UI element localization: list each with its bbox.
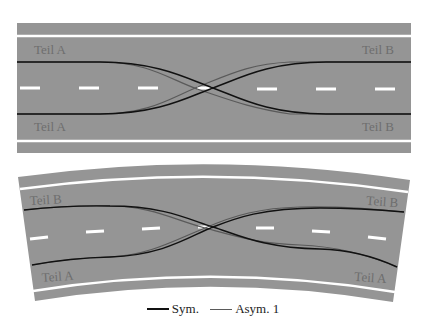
label-teil-a-right: Teil A bbox=[354, 269, 388, 286]
legend-label-asym: Asym. 1 bbox=[235, 301, 279, 316]
label-teil-a-bottom: Teil A bbox=[34, 119, 67, 134]
label-teil-b-bottom: Teil B bbox=[362, 119, 394, 134]
label-teil-b-right: Teil B bbox=[366, 193, 399, 210]
straight-road: Teil A Teil A Teil B Teil B bbox=[17, 23, 411, 153]
diagram-canvas: Teil A Teil A Teil B Teil B Teil B Teil … bbox=[0, 0, 426, 329]
label-teil-a-left: Teil A bbox=[41, 268, 75, 285]
label-teil-b-top: Teil B bbox=[362, 42, 394, 57]
sym-line-swatch-icon bbox=[147, 308, 169, 310]
legend-label-sym: Sym. bbox=[172, 301, 199, 316]
label-teil-b-left: Teil B bbox=[29, 191, 62, 208]
legend: Sym. Asym. 1 bbox=[0, 301, 426, 317]
asym-line-swatch-icon bbox=[210, 309, 232, 310]
legend-item-asym: Asym. 1 bbox=[210, 301, 279, 317]
legend-item-sym: Sym. bbox=[147, 301, 199, 317]
curved-road: Teil B Teil A Teil B Teil A bbox=[18, 164, 410, 302]
label-teil-a-top: Teil A bbox=[34, 42, 67, 57]
